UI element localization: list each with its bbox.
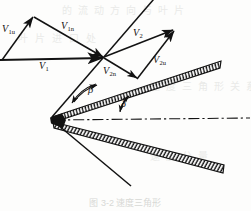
blade-lower <box>53 122 224 173</box>
label-beta: β <box>88 85 93 96</box>
label-v2: V2 <box>133 28 142 38</box>
label-v1u: V1u <box>2 24 15 34</box>
label-v2u: V2u <box>153 55 166 65</box>
label-v2n: V2n <box>103 66 116 76</box>
angle-arc-beta <box>72 84 97 103</box>
blade-upper <box>52 61 221 122</box>
label-v1n: V1n <box>61 21 74 31</box>
centerline <box>54 118 250 120</box>
label-delta: δ <box>121 99 126 110</box>
figure-caption: 图 3-2 速度三角形 <box>0 196 251 209</box>
vector-v1 <box>0 58 103 60</box>
trailing-line-lower <box>52 120 131 186</box>
figure-canvas: 的流动方向与叶片 叶片进口处 速度三角形关系 速度分量 <box>0 0 251 211</box>
label-v1: V1 <box>39 61 48 71</box>
